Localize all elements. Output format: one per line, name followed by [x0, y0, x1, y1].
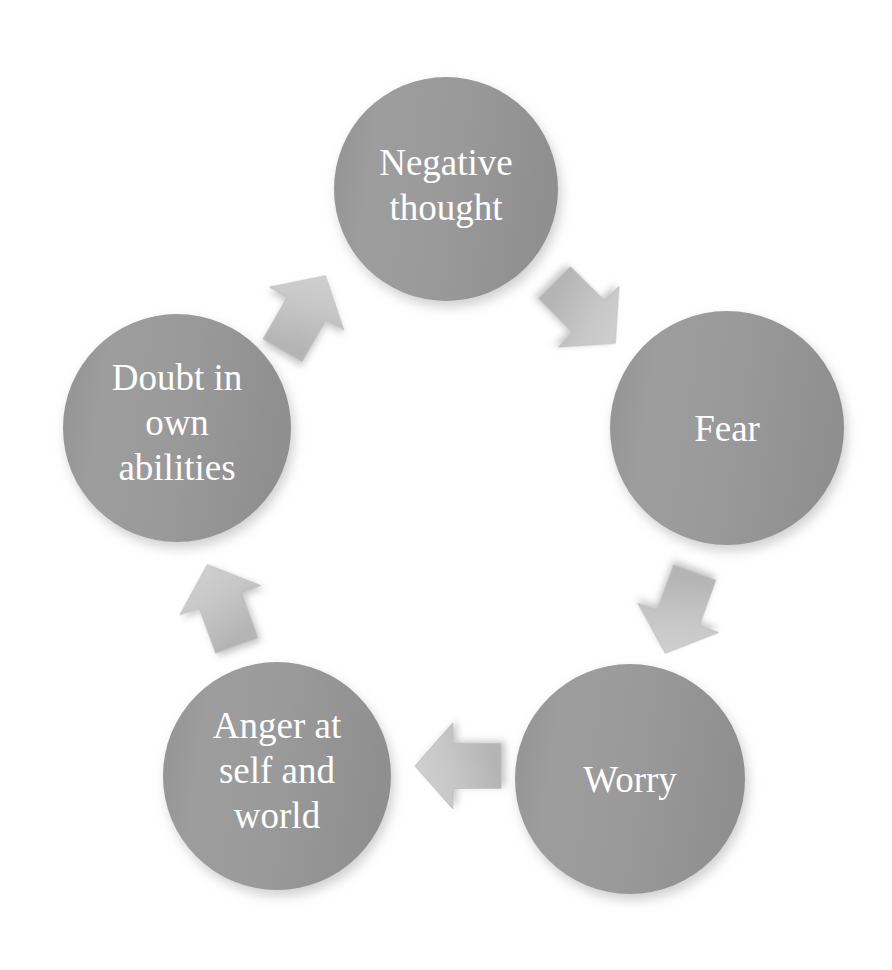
cycle-diagram: NegativethoughtFearWorryAnger atself and…: [0, 0, 892, 970]
arrow-anger-to-doubt: [167, 550, 277, 660]
arrow-fear-to-worry: [625, 558, 735, 668]
node-worry: Worry: [515, 664, 745, 894]
arrow-glyph-southeast: [524, 252, 646, 374]
arrow-negative-thought-to-fear: [524, 252, 646, 374]
node-anger-at-self-and-world: Anger atself andworld: [163, 662, 391, 890]
arrow-glyph-southwest: [625, 558, 735, 668]
node-label-fear: Fear: [694, 408, 760, 449]
cycle-diagram-canvas: NegativethoughtFearWorryAnger atself and…: [0, 0, 892, 970]
node-doubt-in-own-abilities: Doubt inownabilities: [63, 314, 291, 542]
node-negative-thought: Negativethought: [334, 77, 558, 301]
node-fear: Fear: [610, 311, 844, 545]
arrow-worry-to-anger: [415, 723, 501, 809]
arrow-glyph-west: [415, 723, 501, 809]
node-label-worry: Worry: [583, 759, 677, 800]
arrow-glyph-northwest: [167, 550, 277, 660]
